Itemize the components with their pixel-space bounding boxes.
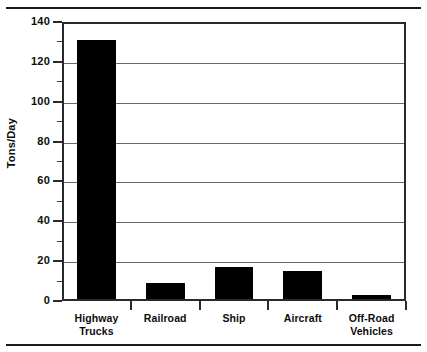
bar bbox=[352, 295, 391, 299]
y-tick-major bbox=[53, 180, 62, 182]
y-tick-label: 140 bbox=[31, 16, 50, 27]
y-tick-major bbox=[53, 141, 62, 143]
y-tick-major bbox=[53, 300, 62, 302]
x-separator-tick bbox=[267, 301, 269, 310]
y-tick-label: 0 bbox=[44, 295, 50, 306]
y-tick-label: 80 bbox=[37, 136, 50, 147]
bar bbox=[146, 283, 185, 299]
y-tick-major bbox=[53, 101, 62, 103]
x-tick-label: Off-RoadVehicles bbox=[337, 312, 406, 337]
y-tick-label: 60 bbox=[37, 175, 50, 186]
y-tick-label: 40 bbox=[37, 215, 50, 226]
y-tick-label: 120 bbox=[31, 56, 50, 67]
x-axis: HighwayTrucksRailroadShipAircraftOff-Roa… bbox=[62, 301, 406, 352]
x-separator-tick bbox=[405, 301, 407, 310]
x-tick-label: Ship bbox=[200, 312, 269, 325]
y-tick-major bbox=[53, 61, 62, 63]
y-tick-major bbox=[53, 220, 62, 222]
x-separator-tick bbox=[130, 301, 132, 310]
plot-area bbox=[62, 22, 406, 301]
y-tick-major bbox=[53, 21, 62, 23]
top-horizontal-rule bbox=[6, 7, 421, 9]
x-separator-tick bbox=[199, 301, 201, 310]
x-tick-label: Aircraft bbox=[268, 312, 337, 325]
y-tick-label: 20 bbox=[37, 255, 50, 266]
x-tick-label: HighwayTrucks bbox=[62, 312, 131, 337]
bar bbox=[77, 40, 116, 299]
x-tick-label: Railroad bbox=[131, 312, 200, 325]
y-tick-label: 100 bbox=[31, 96, 50, 107]
y-tick-major bbox=[53, 260, 62, 262]
x-separator-tick bbox=[336, 301, 338, 310]
y-axis: 020406080100120140 bbox=[0, 0, 62, 352]
bar bbox=[283, 271, 322, 299]
bar-chart-figure: 020406080100120140 Tons/Day HighwayTruck… bbox=[0, 0, 427, 352]
y-axis-title: Tons/Day bbox=[6, 118, 17, 168]
bar bbox=[215, 267, 254, 299]
